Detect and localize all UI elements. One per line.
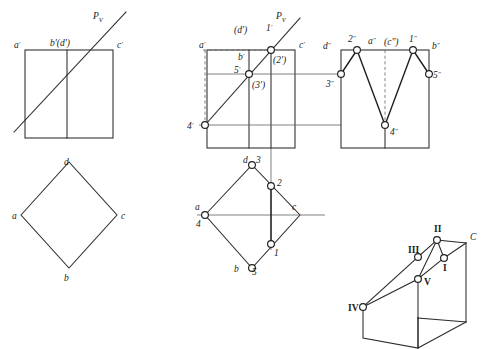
middle-front-label-1-prime: 1′ [266, 23, 273, 34]
middle-front-pv-trace-line [205, 18, 300, 125]
middle-side-label-a-double-prime: a″ [368, 36, 376, 47]
pictorial-left-bottom-edges [363, 307, 418, 348]
middle-front-label-a-prime: a′ [199, 40, 206, 51]
middle-top-diamond [205, 165, 300, 268]
middle-front-label-pv: PV [275, 11, 287, 23]
node-2-top [268, 183, 275, 190]
pictorial-cut-edge-to-III [363, 257, 418, 307]
left-label-a: a [12, 211, 17, 221]
left-label-c-prime: c′ [117, 40, 123, 51]
middle-front-label-2-prime-hidden: (2') [273, 55, 286, 66]
left-front-pv-trace-line [14, 12, 126, 132]
node-1-prime [268, 47, 275, 54]
middle-front-label-4-prime: 4′ [187, 121, 194, 132]
middle-top-label-5: 5 [252, 267, 257, 277]
left-top-diamond [21, 162, 117, 268]
left-label-pv: PV [92, 11, 104, 23]
middle-side-label-c-double-prime-hidden: (c") [384, 37, 399, 48]
left-label-b-prime-d-prime: b'(d') [50, 38, 70, 49]
left-top-view-group [21, 162, 117, 268]
node-4-prime [202, 122, 209, 129]
technical-drawing-figure: a′ b'(d') c′ PV d a c b a′ (d') [0, 0, 482, 349]
middle-top-label-3: 3 [255, 155, 261, 165]
pictorial-label-V: V [424, 277, 431, 287]
middle-top-label-4: 4 [196, 219, 201, 229]
middle-front-label-c-prime: c′ [299, 40, 305, 51]
middle-top-view-group [197, 165, 325, 268]
left-label-c: c [121, 211, 126, 221]
middle-side-label-2-double-prime: 2″ [348, 34, 356, 45]
pictorial-label-C: C [470, 232, 477, 242]
node-V-pictorial [415, 276, 422, 283]
middle-side-label-3-double-prime: 3″ [325, 79, 334, 90]
pictorial-label-III: III [408, 245, 419, 255]
node-3-top [249, 162, 256, 169]
node-1-top [268, 241, 275, 248]
projection-drawing-svg: a′ b'(d') c′ PV d a c b a′ (d') [0, 0, 482, 349]
node-1-double-prime [410, 47, 417, 54]
node-I-pictorial [441, 255, 448, 262]
middle-side-label-1-double-prime: 1″ [409, 34, 417, 45]
node-5-prime [246, 71, 253, 78]
middle-side-label-4-double-prime: 4″ [390, 127, 398, 138]
pictorial-label-II: II [434, 224, 442, 234]
left-label-b: b [64, 273, 69, 283]
middle-side-label-b-double-prime: b″ [432, 41, 440, 52]
node-IV-pictorial [360, 304, 367, 311]
pictorial-top-edge [437, 240, 466, 243]
pictorial-label-IV: IV [348, 303, 359, 313]
node-3-double-prime [338, 71, 345, 78]
middle-front-label-5-prime: 5′ [234, 65, 241, 76]
middle-side-label-5-double-prime: 5″ [433, 70, 441, 81]
pictorial-edge-V-to-I [418, 258, 444, 279]
node-II-pictorial [434, 237, 441, 244]
middle-side-label-d-double-prime: d″ [323, 41, 331, 52]
middle-top-label-1: 1 [274, 248, 279, 258]
middle-side-view-group [341, 50, 429, 148]
node-2-double-prime [354, 47, 361, 54]
middle-top-label-d: d [243, 155, 248, 165]
middle-top-label-b: b [234, 264, 239, 274]
middle-front-label-3-prime-hidden: (3') [252, 80, 265, 91]
middle-front-label-b-prime: b′ [238, 52, 245, 63]
node-4-double-prime [382, 122, 389, 129]
middle-top-label-2: 2 [277, 178, 282, 188]
pictorial-bottom-right-edge [418, 322, 466, 348]
pictorial-label-I: I [443, 263, 447, 273]
node-4-top [202, 212, 209, 219]
middle-front-label-d-prime-hidden: (d') [234, 25, 247, 36]
node-5-double-prime [426, 71, 433, 78]
middle-top-label-a: a [195, 202, 200, 212]
pictorial-edge-I-to-C [444, 243, 466, 258]
left-front-rectangle [25, 50, 113, 138]
pictorial-inner-bottom-edge [418, 318, 466, 322]
left-label-a-prime: a′ [14, 40, 21, 51]
left-front-view-group [14, 12, 126, 138]
left-label-d: d [64, 157, 69, 167]
